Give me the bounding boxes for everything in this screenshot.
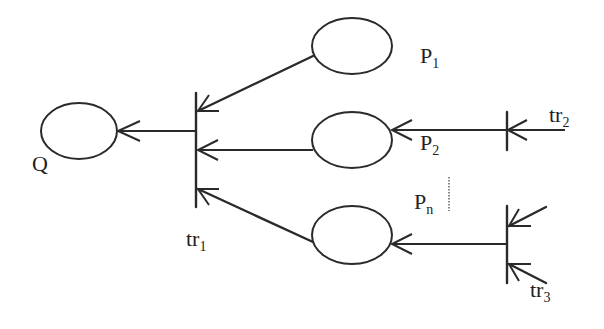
arc-tr1-to-q: [118, 121, 196, 141]
place-p1: [312, 18, 392, 74]
label-q: Q: [32, 151, 48, 176]
place-q: [41, 103, 117, 159]
place-pn: [312, 206, 392, 264]
place-p2: [312, 112, 392, 168]
arc-p1-to-tr1: [198, 56, 313, 111]
label-pn: Pn: [414, 189, 433, 217]
arc-external-a-to-tr3: [509, 207, 546, 226]
arc-tr2-to-p2: [392, 120, 507, 140]
label-p2: P2: [420, 130, 439, 158]
arc-external-b-to-tr3: [509, 264, 546, 283]
label-tr1: tr1: [186, 226, 206, 254]
label-tr2: tr2: [549, 102, 569, 130]
label-p1: P1: [420, 43, 439, 71]
arc-p2-to-tr1: [198, 140, 313, 160]
arc-tr3-to-pn: [392, 234, 507, 254]
arc-pn-to-tr1: [198, 189, 313, 242]
diagram-canvas: Q tr1 P1 P2 tr2: [0, 0, 604, 329]
